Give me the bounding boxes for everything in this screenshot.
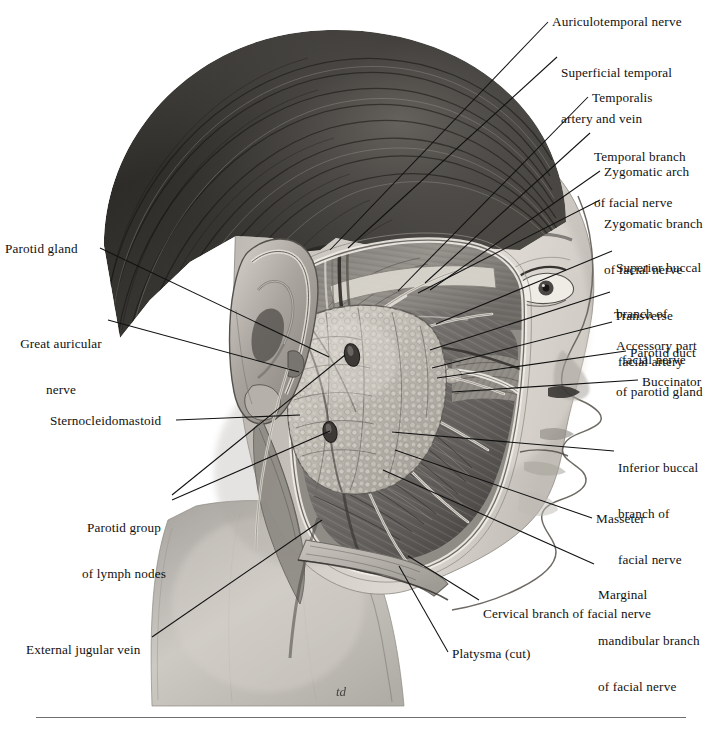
label-cervical-branch-of-facial-nerve: Cervical branch of facial nerve: [483, 606, 651, 621]
label-line: Superior buccal: [616, 260, 701, 275]
label-great-auricular-nerve: Great auricular nerve: [11, 306, 111, 412]
label-line: Superficial temporal: [561, 65, 672, 80]
label-accessory-part-of-parotid-gland: Accessory part of parotid gland: [616, 308, 703, 414]
label-parotid-gland: Parotid gland: [5, 241, 78, 256]
label-marginal-mandibular-branch-of-facial-nerve: Marginal mandibular branch of facial ner…: [598, 557, 700, 709]
label-line: Parotid group: [76, 520, 172, 535]
label-platysma-cut: Platysma (cut): [452, 646, 531, 661]
label-line: nerve: [11, 382, 111, 397]
label-buccinator: Buccinator: [642, 374, 701, 389]
label-masseter: Masseter: [596, 511, 645, 526]
label-parotid-group-of-lymph-nodes: Parotid group of lymph nodes: [76, 490, 172, 596]
label-line: Temporal branch: [594, 149, 686, 164]
label-line: Marginal: [598, 587, 700, 602]
label-parotid-duct: Parotid duct: [630, 345, 696, 360]
label-line: mandibular branch: [598, 633, 700, 648]
label-zygomatic-arch: Zygomatic arch: [604, 164, 689, 179]
label-line: Inferior buccal: [618, 460, 698, 475]
label-auriculotemporal-nerve: Auriculotemporal nerve: [552, 14, 682, 29]
label-sternocleidomastoid: Sternocleidomastoid: [50, 413, 161, 428]
bottom-rule: [36, 717, 686, 718]
label-external-jugular-vein: External jugular vein: [26, 642, 140, 657]
label-temporalis: Temporalis: [592, 90, 653, 105]
label-line: of lymph nodes: [76, 566, 172, 581]
label-line: Great auricular: [11, 336, 111, 351]
artist-signature: td: [336, 684, 346, 700]
label-line: of facial nerve: [598, 679, 700, 694]
